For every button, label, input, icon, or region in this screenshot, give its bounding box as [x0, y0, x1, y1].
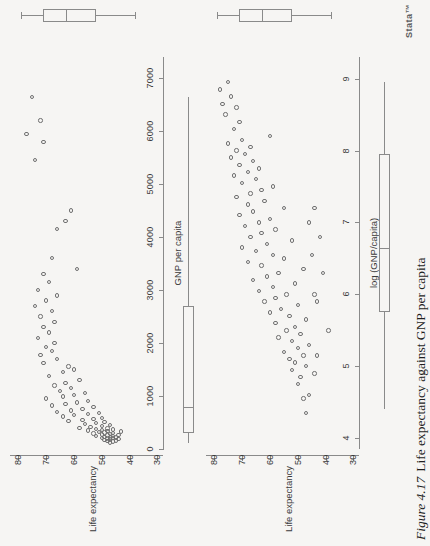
panel-log-data-point	[226, 141, 230, 145]
panel-log-data-point	[310, 253, 314, 257]
panel-log-data-point	[296, 303, 300, 307]
panel-log-data-point	[298, 332, 302, 336]
panel-log-boxplot-x-lower-whisker	[384, 312, 385, 409]
panel-log-data-point	[293, 281, 297, 285]
panel-log-data-point	[315, 353, 319, 357]
panel-log-data-point	[296, 346, 300, 350]
panel-log-data-point	[273, 296, 277, 300]
panel-log-xtick-1	[355, 366, 360, 367]
panel-log-data-point	[307, 343, 311, 347]
panel-log-boxplot-x-box	[379, 154, 390, 312]
panel-log-data-point	[248, 191, 252, 195]
panel-log-data-point	[312, 371, 316, 375]
panel-log-data-point	[246, 260, 250, 264]
panel-log-data-point	[301, 353, 305, 357]
panel-log-data-point	[257, 220, 261, 224]
panel-log-xticklabel-1: 5	[341, 364, 351, 369]
panel-log-data-point	[307, 393, 311, 397]
panel-log-xtick-3	[355, 222, 360, 223]
panel-log-xaxis-line	[359, 57, 360, 449]
scatter-panel-log-gnp-per-capita: 456789log (GNP/capita)304050607080Life e…	[0, 0, 430, 546]
panel-log-data-point	[234, 195, 238, 199]
panel-log-data-point	[251, 209, 255, 213]
panel-log-data-point	[234, 105, 238, 109]
panel-log-data-point	[226, 80, 230, 84]
panel-log-yaxis-line	[206, 455, 359, 456]
figure-caption-text: Life expectancy against GNP per capita	[413, 257, 428, 471]
panel-log-data-point	[265, 242, 269, 246]
panel-log-data-point	[282, 350, 286, 354]
panel-log-data-point	[271, 184, 275, 188]
panel-log-boxplot-y-median	[262, 9, 263, 22]
panel-log-data-point	[243, 152, 247, 156]
panel-log-data-point	[298, 375, 302, 379]
panel-log-xticklabel-5: 9	[341, 76, 351, 81]
panel-log-data-point	[254, 249, 258, 253]
panel-log-data-point	[273, 321, 277, 325]
panel-log-data-point	[290, 238, 294, 242]
panel-log-data-point	[271, 285, 275, 289]
panel-log-data-point	[254, 177, 258, 181]
panel-log-data-point	[321, 271, 325, 275]
panel-log-boxplot-y-upper-whisker	[217, 15, 239, 16]
panel-log-yticklabel-4: 70	[237, 455, 247, 465]
panel-log-data-point	[232, 127, 236, 131]
panel-log-data-point	[284, 292, 288, 296]
panel-log-data-point	[282, 206, 286, 210]
panel-log-boxplot-y-upper-cap	[217, 12, 218, 19]
panel-log-data-point	[251, 278, 255, 282]
panel-log-data-point	[237, 213, 241, 217]
panel-log-boxplot-y-lower-whisker	[292, 15, 331, 16]
panel-log-xtick-2	[355, 294, 360, 295]
panel-log-data-point	[287, 314, 291, 318]
panel-log-data-point	[287, 357, 291, 361]
figure-number: Figure 4.17	[413, 472, 428, 540]
panel-log-yticklabel-2: 50	[293, 455, 303, 465]
panel-log-data-point	[259, 231, 263, 235]
panel-log-data-point	[265, 274, 269, 278]
panel-log-data-point	[257, 289, 261, 293]
panel-log-yticklabel-1: 40	[321, 455, 331, 465]
panel-log-data-point	[282, 256, 286, 260]
panel-log-data-point	[234, 148, 238, 152]
panel-log-data-point	[248, 145, 252, 149]
panel-log-data-point	[262, 199, 266, 203]
panel-log-data-point	[284, 328, 288, 332]
panel-log-xaxis-title: log (GNP/capita)	[368, 218, 379, 288]
panel-log-yticklabel-3: 60	[265, 455, 275, 465]
panel-log-data-point	[312, 206, 316, 210]
panel-log-data-point	[246, 202, 250, 206]
panel-log-yticklabel-0: 30	[348, 455, 358, 465]
panel-log-data-point	[243, 224, 247, 228]
panel-log-xticklabel-3: 7	[341, 220, 351, 225]
panel-log-data-point	[237, 163, 241, 167]
panel-log-data-point	[326, 328, 330, 332]
panel-log-data-point	[237, 120, 241, 124]
panel-log-xtick-0	[355, 438, 360, 439]
panel-log-xticklabel-2: 6	[341, 292, 351, 297]
panel-log-data-point	[229, 94, 233, 98]
panel-log-data-point	[276, 271, 280, 275]
panel-log-boxplot-x-median	[379, 248, 390, 249]
panel-log-xticklabel-0: 4	[341, 436, 351, 441]
panel-log-data-point	[304, 317, 308, 321]
stata-watermark: Stata™	[404, 4, 414, 38]
panel-log-data-point	[246, 170, 250, 174]
panel-log-data-point	[251, 159, 255, 163]
panel-log-data-point	[276, 335, 280, 339]
panel-log-data-point	[315, 299, 319, 303]
figure-page: 01000200030004000500060007000GNP per cap…	[0, 0, 430, 546]
panel-log-data-point	[257, 166, 261, 170]
panel-log-data-point	[259, 263, 263, 267]
panel-log-data-point	[296, 382, 300, 386]
panel-log-data-point	[240, 181, 244, 185]
panel-log-data-point	[312, 292, 316, 296]
panel-log-data-point	[220, 102, 224, 106]
panel-log-data-point	[268, 134, 272, 138]
panel-log-data-point	[293, 325, 297, 329]
panel-log-xtick-4	[355, 151, 360, 152]
panel-log-data-point	[307, 220, 311, 224]
panel-log-data-point	[218, 87, 222, 91]
panel-log-data-point	[304, 364, 308, 368]
panel-log-data-point	[223, 112, 227, 116]
